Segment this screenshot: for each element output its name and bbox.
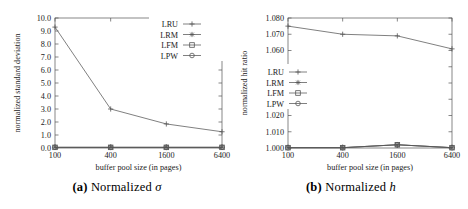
- legend-label-lfm: LFM: [267, 89, 285, 98]
- y-tick-label: 2.0: [41, 118, 51, 127]
- series-line: [288, 145, 452, 148]
- plus-icon: [395, 33, 400, 38]
- legend-label-lru: LRU: [162, 20, 178, 29]
- marker-plus: [52, 25, 57, 30]
- legend: LRULRMLFMLPW: [255, 64, 331, 109]
- marker-plus: [219, 129, 224, 134]
- y-tick-label: 10.0: [37, 14, 51, 23]
- y-tick-label: 5.0: [41, 79, 51, 88]
- x-tick-label: 400: [105, 151, 117, 160]
- plus-icon: [285, 24, 290, 29]
- chart-b-caption-symbol: h: [390, 180, 396, 194]
- series-line: [288, 26, 452, 49]
- marker-star: [295, 80, 300, 85]
- figure-root: 0.01.02.03.04.05.06.07.08.09.010.0100400…: [0, 0, 468, 209]
- y-tick-label: 3.0: [41, 105, 51, 114]
- x-tick-label: 100: [49, 151, 61, 160]
- star-icon: [295, 80, 300, 85]
- x-tick-label: 400: [337, 151, 349, 160]
- chart-b-caption-tag: (b): [306, 180, 322, 194]
- x-tick-label: 6400: [444, 151, 460, 160]
- x-tick-label: 6400: [214, 151, 230, 160]
- x-tick-label: 1600: [158, 151, 174, 160]
- marker-plus: [108, 106, 113, 111]
- chart-a-plot: 0.01.02.03.04.05.06.07.08.09.010.0100400…: [0, 0, 234, 180]
- y-axis-title: normalized hit ratio: [240, 51, 249, 116]
- chart-b-caption-text: Normalized: [325, 180, 386, 194]
- legend: LRULRMLFMLPW: [149, 16, 225, 61]
- y-tick-label: 6.0: [41, 66, 51, 75]
- star-icon: [189, 32, 194, 37]
- series-lpw: [286, 142, 455, 150]
- chart-a-caption-symbol: σ: [155, 180, 161, 194]
- marker-plus: [340, 32, 345, 37]
- plus-icon: [219, 129, 224, 134]
- x-tick-label: 100: [282, 151, 294, 160]
- legend-label-lpw: LPW: [267, 100, 285, 109]
- plus-icon: [340, 32, 345, 37]
- y-tick-label: 9.0: [41, 27, 51, 36]
- y-tick-label: 1.060: [266, 46, 284, 55]
- legend-label-lrm: LRM: [160, 31, 178, 40]
- plus-icon: [52, 25, 57, 30]
- chart-panel-a: 0.01.02.03.04.05.06.07.08.09.010.0100400…: [0, 0, 234, 209]
- y-tick-label: 1.0: [41, 131, 51, 140]
- y-tick-label: 1.010: [266, 128, 284, 137]
- marker-plus: [395, 33, 400, 38]
- y-tick-label: 8.0: [41, 40, 51, 49]
- chart-b-caption: (b) Normalized h: [234, 180, 468, 195]
- x-tick-label: 1600: [389, 151, 405, 160]
- marker-star: [189, 32, 194, 37]
- y-tick-label: 4.0: [41, 92, 51, 101]
- chart-panel-b: 1.0001.0101.0201.0301.0401.0501.0601.070…: [234, 0, 468, 209]
- x-axis-title: buffer pool size (in pages): [96, 163, 182, 172]
- y-tick-label: 1.070: [266, 30, 284, 39]
- x-axis-title: buffer pool size (in pages): [327, 163, 413, 172]
- chart-a-caption-tag: (a): [72, 180, 87, 194]
- chart-b-plot: 1.0001.0101.0201.0301.0401.0501.0601.070…: [234, 0, 468, 180]
- y-axis-title: normalized standard deviation: [13, 33, 22, 132]
- plus-icon: [108, 106, 113, 111]
- series-lru: [285, 24, 454, 52]
- y-tick-label: 1.080: [266, 14, 284, 23]
- series-lpw: [53, 145, 225, 150]
- chart-a-caption: (a) Normalized σ: [0, 180, 234, 195]
- marker-plus: [164, 121, 169, 126]
- plus-icon: [164, 121, 169, 126]
- legend-label-lfm: LFM: [161, 41, 179, 50]
- y-tick-label: 1.020: [266, 111, 284, 120]
- legend-label-lrm: LRM: [266, 79, 284, 88]
- marker-plus: [285, 24, 290, 29]
- y-tick-label: 7.0: [41, 53, 51, 62]
- chart-a-caption-text: Normalized: [91, 180, 152, 194]
- legend-label-lru: LRU: [268, 68, 284, 77]
- legend-label-lpw: LPW: [161, 52, 179, 61]
